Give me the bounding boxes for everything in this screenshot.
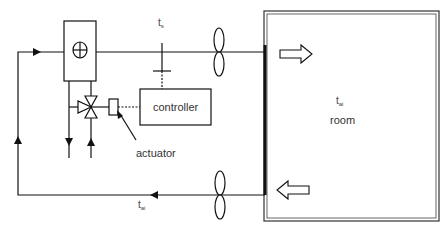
hvac-diagram <box>0 0 445 233</box>
actuator <box>109 99 140 140</box>
coil <box>64 21 96 81</box>
return-flow-arrow <box>150 191 158 199</box>
room-label: room <box>330 115 355 126</box>
water-supply-arrow <box>87 138 95 146</box>
room-temp-label: tai <box>336 96 343 107</box>
supply-sensor <box>153 43 171 89</box>
upflow-arrow <box>14 136 22 144</box>
inlet-arrow <box>33 48 41 56</box>
controller-label: controller <box>153 102 198 113</box>
actuator-label: actuator <box>136 148 176 159</box>
three-way-valve <box>78 96 109 118</box>
water-pipes <box>65 81 95 158</box>
return-temp-label: tai <box>138 200 145 211</box>
water-return-arrow <box>65 138 73 146</box>
supply-temp-label: ts <box>158 18 164 29</box>
